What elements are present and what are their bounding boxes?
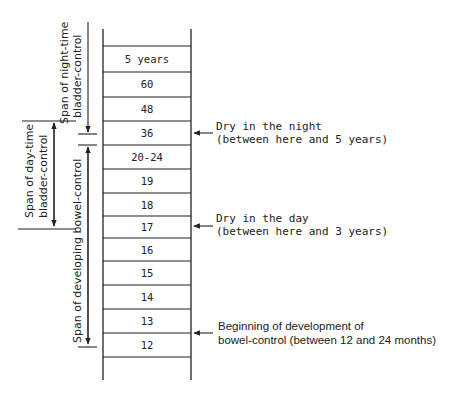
span-day-label-2: bladder-control xyxy=(37,135,50,218)
dry-day-line1: Dry in the day xyxy=(216,212,309,225)
cell-20-24: 20-24 xyxy=(131,151,163,163)
development-diagram: 5 years 60 48 36 20-24 19 18 17 16 15 14… xyxy=(0,0,459,401)
cell-15: 15 xyxy=(141,267,154,279)
annotation-dry-night: Dry in the night (between here and 5 yea… xyxy=(194,120,388,146)
dry-day-line2: (between here and 3 years) xyxy=(216,225,388,238)
cell-5-years: 5 years xyxy=(125,53,169,65)
dry-night-line1: Dry in the night xyxy=(216,120,322,133)
cell-17: 17 xyxy=(141,221,154,233)
bowel-begin-line1: Beginning of development of xyxy=(218,320,365,332)
span-day-label-1: Span of day-time xyxy=(23,124,36,218)
span-night-time: Span of night-time bladder-control xyxy=(58,21,97,134)
cell-12: 12 xyxy=(141,339,154,351)
annotation-bowel-begin: Beginning of development of bowel-contro… xyxy=(194,320,436,346)
cell-14: 14 xyxy=(141,291,154,303)
cell-60: 60 xyxy=(141,78,154,90)
cell-36: 36 xyxy=(141,127,154,139)
span-day-time: Span of day-time bladder-control xyxy=(18,121,76,229)
cell-13: 13 xyxy=(141,315,154,327)
cell-18: 18 xyxy=(141,199,154,211)
cell-48: 48 xyxy=(141,103,154,115)
span-night-label-1: Span of night-time xyxy=(58,21,71,124)
dry-night-line2: (between here and 5 years) xyxy=(216,133,388,146)
bowel-begin-line2: bowel-control (between 12 and 24 months) xyxy=(218,334,436,346)
span-bowel-label: Span of developing bowel-control xyxy=(71,159,84,343)
span-night-label-2: bladder-control xyxy=(71,35,84,118)
cell-19: 19 xyxy=(141,175,154,187)
cell-16: 16 xyxy=(141,244,154,256)
annotation-dry-day: Dry in the day (between here and 3 years… xyxy=(194,212,388,238)
span-bowel-control: Span of developing bowel-control xyxy=(71,145,97,347)
ladder: 5 years 60 48 36 20-24 19 18 17 16 15 14… xyxy=(103,29,191,380)
